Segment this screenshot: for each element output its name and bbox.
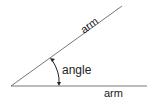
arc-arrowhead-top-icon — [50, 58, 55, 62]
upper-arm-label: arm — [78, 15, 100, 36]
arc-arrowhead-bottom-icon — [57, 82, 61, 86]
lower-arm-label: arm — [104, 87, 123, 99]
angle-diagram: angle arm arm — [0, 0, 153, 103]
angle-arc — [52, 60, 59, 84]
angle-label: angle — [62, 63, 92, 77]
